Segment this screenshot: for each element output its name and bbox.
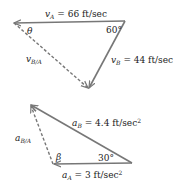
aB-vector [31, 105, 132, 163]
aB-label: aB = 4.4 ft/sec2 [72, 117, 141, 129]
vB-label: vB = 44 ft/sec [111, 55, 173, 66]
aBA-label: aB/A [15, 133, 32, 144]
theta-label: θ [27, 26, 33, 36]
beta-label: β [55, 152, 61, 162]
vA-label: vA = 66 ft/sec [45, 9, 107, 20]
vA-vector [14, 21, 125, 23]
aA-label: aA = 3 ft/sec2 [62, 169, 123, 181]
aA-vector [54, 163, 132, 164]
aBA-vector [31, 106, 53, 164]
vBA-label: vB/A [26, 54, 43, 65]
vector-diagram: vA = 66 ft/sec θ 60° vB = 44 ft/sec vB/A… [0, 0, 173, 189]
angle-30-label: 30° [98, 153, 114, 163]
angle-60-label: 60° [106, 25, 122, 35]
